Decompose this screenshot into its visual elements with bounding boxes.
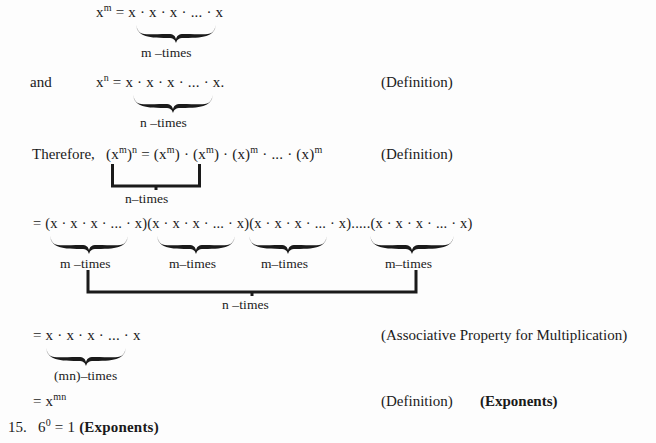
therefore-connector: Therefore, [32, 146, 95, 163]
eq3-dots: · ... · (x) [258, 146, 314, 162]
equation-line-6: = xmn [33, 393, 67, 410]
equation-line-1: xm = x · x · x · ... · x [96, 4, 223, 21]
list-item-15-content: 60 = 1 (Exponents) [38, 419, 159, 436]
equation-line-2: xn = x · x · x · ... · x. [96, 74, 224, 91]
bracket-label-n-times-2: n –times [222, 297, 269, 313]
annotation-definition-2: (Definition) [381, 146, 453, 163]
proof-page: xm = x · x · x · ... · x m –times and xn… [0, 0, 656, 443]
annotation-associative-property: (Associative Property for Multiplication… [381, 327, 627, 344]
under-bracket-n-times-wide [86, 270, 418, 296]
eq3-dot1: ) · (x [175, 146, 206, 162]
underbrace-n-times-1 [131, 94, 215, 114]
underbrace-m-times-group-1 [48, 235, 130, 255]
eq6-prefix: = x [33, 393, 53, 409]
eq6-exponent: mn [53, 391, 66, 402]
equation-line-4: = (x · x · x · ... · x)(x · x · x · ... … [33, 215, 473, 232]
eq3-eq: = (x [137, 146, 166, 162]
eq3-sup-m5: m [314, 144, 322, 155]
eq3-dot2: ) · (x) [214, 146, 250, 162]
eq1-exponent: m [104, 2, 112, 13]
brace-label-m-times-1: m –times [141, 45, 192, 61]
and-connector: and [30, 74, 52, 91]
annotation-definition-1: (Definition) [381, 74, 453, 91]
eq2-rest: = x · x · x · ... · x. [109, 74, 225, 90]
annotation-exponents-tag: (Exponents) [480, 393, 558, 410]
eq3-sup-m3: m [206, 144, 214, 155]
eq3-sup-m1: m [119, 144, 127, 155]
item15-base: 6 [38, 419, 46, 435]
bracket-label-n-times-1: n–times [125, 191, 168, 207]
brace-label-n-times-1: n –times [140, 115, 187, 131]
annotation-definition-3: (Definition) [381, 393, 453, 410]
eq3-lparen: (x [106, 146, 119, 162]
equation-line-5: = x · x · x · ... · x [33, 327, 141, 344]
eq1-rest: = x · x · x · ... · x [112, 4, 224, 20]
brace-label-mn-times: (mn)–times [54, 368, 117, 384]
underbrace-m-times-group-2 [155, 235, 237, 255]
underbrace-m-times-group-4 [368, 235, 456, 255]
underbrace-mn-times [44, 347, 128, 367]
item15-rest: = 1 [51, 419, 79, 435]
item15-tag: (Exponents) [79, 419, 159, 435]
underbrace-m-times-1 [134, 24, 218, 44]
equation-line-3: (xm)n = (xm) · (xm) · (x)m · ... · (x)m [106, 146, 322, 163]
underbrace-m-times-group-3 [247, 235, 329, 255]
under-bracket-n-times [110, 164, 202, 190]
list-item-number-15: 15. [8, 419, 27, 436]
eq2-base: x [96, 74, 104, 90]
eq1-base: x [96, 4, 104, 20]
eq3-sup-m2: m [167, 144, 175, 155]
